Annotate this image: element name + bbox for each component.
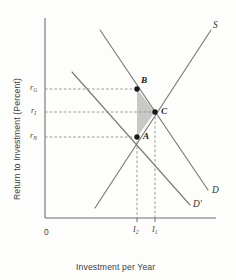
curve-label-s: S — [213, 21, 218, 30]
y-tick-sub-rn: N — [33, 135, 37, 141]
y-tick-label-ri: rI — [31, 107, 36, 115]
curve-label-d: D — [212, 186, 219, 195]
point-marker-c — [152, 109, 157, 114]
y-tick-label-rg: rG — [30, 84, 37, 92]
demand-curve-d-prime — [72, 72, 190, 205]
point-label-b: B — [141, 76, 147, 85]
investment-return-figure: Return to Investment (Percent) Investmen… — [0, 0, 236, 280]
x-tick-label-i1: I1 — [152, 226, 158, 234]
y-tick-label-rn: rN — [30, 132, 37, 140]
origin-label: 0 — [44, 228, 49, 236]
x-tick-sub-i1: 1 — [155, 229, 158, 235]
point-marker-b — [134, 86, 139, 91]
point-label-a: A — [143, 132, 149, 141]
y-tick-sub-rg: G — [33, 87, 37, 93]
y-tick-sub-ri: I — [34, 110, 36, 116]
curve-label-d-prime: D' — [193, 200, 202, 209]
x-axis-title: Investment per Year — [76, 263, 155, 272]
y-axis-title: Return to Investment (Percent) — [13, 78, 22, 200]
supply-curve-s — [95, 30, 211, 208]
x-tick-sub-i2: 2 — [136, 229, 139, 235]
point-label-c: C — [161, 107, 167, 116]
x-tick-label-i2: I2 — [133, 226, 139, 234]
point-marker-a — [134, 134, 139, 139]
